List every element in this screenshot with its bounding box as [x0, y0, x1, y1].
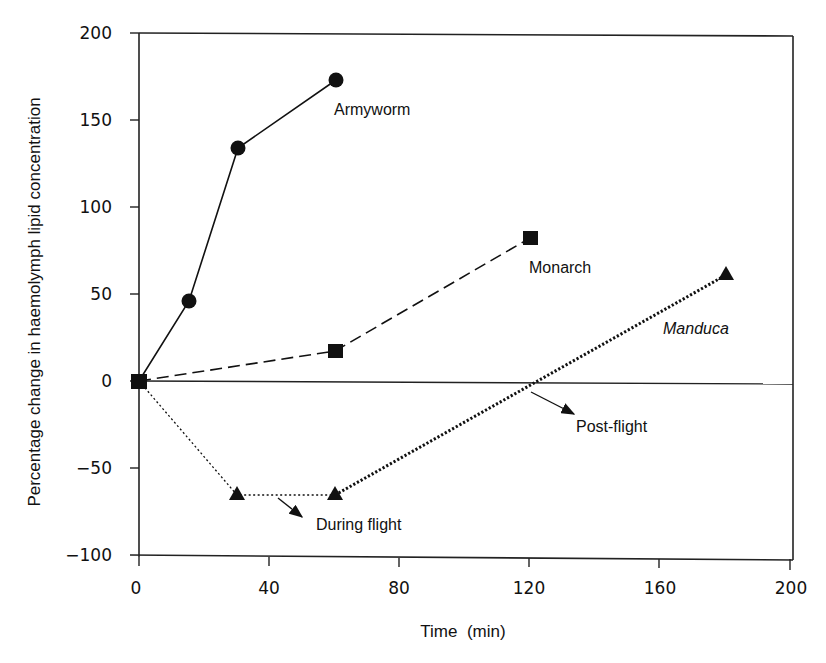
- y-tick-label: 150: [80, 110, 112, 130]
- y-tick-label: −50: [76, 458, 112, 478]
- y-tick-label: 50: [90, 284, 112, 304]
- y-tick-label: 200: [80, 23, 112, 43]
- label-monarch: Monarch: [529, 259, 591, 276]
- label-armyworm: Armyworm: [334, 101, 410, 118]
- y-axis: 200 150 100 50 0 −50 −100: [65, 23, 139, 565]
- y-axis-title: Percentage change in haemolymph lipid co…: [25, 97, 44, 506]
- label-manduca: Manduca: [663, 320, 729, 337]
- annotation-label: Post-flight: [576, 418, 648, 435]
- x-tick-label: 80: [388, 578, 410, 598]
- x-tick-label: 40: [258, 578, 280, 598]
- data-point: [328, 344, 343, 358]
- origin-marker: [131, 374, 147, 389]
- x-tick-label: 160: [644, 578, 676, 598]
- annotation-post-flight: Post-flight: [531, 392, 648, 435]
- chart: 200 150 100 50 0 −50 −100 0 40 80 120 16…: [0, 0, 826, 663]
- y-tick-label: 0: [101, 371, 112, 391]
- data-point: [718, 266, 734, 280]
- y-tick-label: −100: [65, 545, 112, 565]
- series-armyworm: [139, 73, 344, 382]
- zero-line: [139, 381, 793, 384]
- x-tick-label: 120: [513, 578, 545, 598]
- data-point: [329, 73, 344, 88]
- plot-frame: [130, 33, 793, 560]
- y-tick-label: 100: [80, 197, 112, 217]
- x-axis-title: Time (min): [420, 622, 505, 641]
- annotation-during-flight: During flight: [278, 498, 402, 533]
- x-tick-label: 200: [775, 578, 807, 598]
- x-tick-label: 0: [131, 578, 142, 598]
- x-axis: 0 40 80 120 160 200: [131, 557, 808, 598]
- data-point: [523, 231, 538, 245]
- data-point: [182, 294, 197, 309]
- series-monarch: [139, 231, 538, 381]
- data-point: [231, 141, 246, 156]
- annotation-label: During flight: [316, 516, 402, 533]
